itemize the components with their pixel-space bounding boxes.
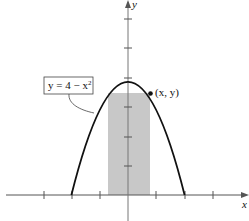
parabola-diagram: (x, y) y = 4 − x2 y x <box>0 0 249 221</box>
point-marker <box>148 91 153 96</box>
leader-line <box>69 94 94 113</box>
y-axis-arrow-icon <box>125 0 131 8</box>
shaded-rectangle <box>108 93 150 195</box>
equation-label: y = 4 − x2 <box>48 79 92 91</box>
y-axis-label: y <box>131 0 137 10</box>
point-label: (x, y) <box>155 86 179 99</box>
x-axis-label: x <box>241 198 247 210</box>
